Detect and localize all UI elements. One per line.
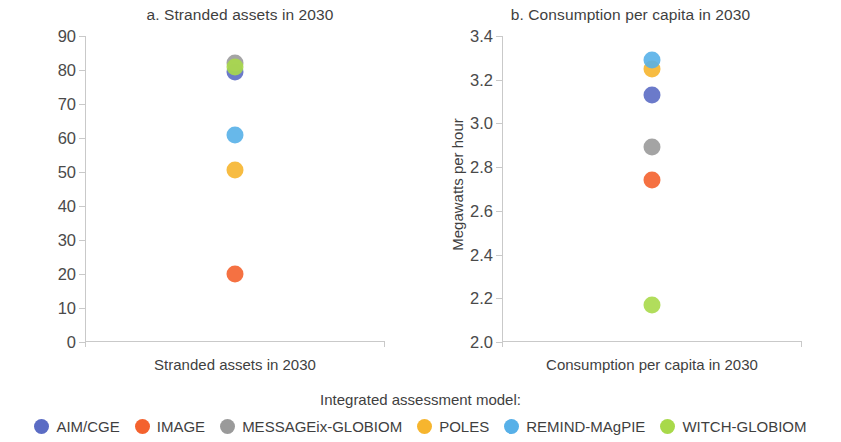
x-axis-line-a [85, 341, 385, 342]
y-tick-label-a-2: 20 [58, 265, 76, 284]
y-tick-a-2 [79, 274, 85, 275]
data-point [227, 162, 244, 179]
legend-item-remind-magpie[interactable]: REMIND-MAgPIE [504, 418, 645, 435]
y-axis-line-b [502, 36, 503, 342]
y-tick-label-b-7: 3.4 [470, 27, 493, 46]
legend-item-label: AIM/CGE [56, 418, 119, 435]
panel-b-title: b. Consumption per capita in 2030 [420, 6, 841, 24]
legend-item-label: POLES [439, 418, 489, 435]
x-axis-line-b [502, 341, 802, 342]
data-point [644, 296, 661, 313]
y-tick-a-4 [79, 206, 85, 207]
y-axis-title-b: Megawatts per hour [449, 75, 466, 295]
legend-item-poles[interactable]: POLES [417, 418, 489, 435]
y-tick-a-0 [79, 342, 85, 343]
legend-swatch-icon [417, 419, 432, 434]
y-tick-label-a-3: 30 [58, 231, 76, 250]
legend-swatch-icon [660, 419, 675, 434]
plot-area-a: 0102030405060708090 [85, 36, 385, 342]
legend-swatch-icon [135, 419, 150, 434]
data-point [644, 172, 661, 189]
y-tick-label-b-0: 2.0 [470, 333, 493, 352]
y-tick-label-a-6: 60 [58, 129, 76, 148]
y-tick-b-4 [496, 167, 502, 168]
plot-area-b: 2.02.22.42.62.83.03.23.4 Megawatts per h… [502, 36, 802, 342]
y-tick-label-a-5: 50 [58, 163, 76, 182]
y-tick-a-5 [79, 172, 85, 173]
y-tick-label-a-9: 90 [58, 27, 76, 46]
x-axis-label-b: Consumption per capita in 2030 [502, 356, 802, 373]
legend-swatch-icon [34, 419, 49, 434]
x-axis-end-tick-left-a [85, 342, 86, 347]
y-tick-b-6 [496, 80, 502, 81]
data-point [644, 52, 661, 69]
y-tick-label-b-3: 2.6 [470, 201, 493, 220]
y-tick-label-b-6: 3.2 [470, 70, 493, 89]
legend-item-label: REMIND-MAgPIE [526, 418, 645, 435]
y-tick-label-a-8: 80 [58, 61, 76, 80]
data-point [227, 58, 244, 75]
y-tick-a-1 [79, 308, 85, 309]
legend-item-witch-globiom[interactable]: WITCH-GLOBIOM [660, 418, 806, 435]
data-point [644, 87, 661, 104]
y-tick-label-b-1: 2.2 [470, 289, 493, 308]
y-tick-label-a-4: 40 [58, 197, 76, 216]
y-tick-label-a-1: 10 [58, 299, 76, 318]
y-tick-label-b-5: 3.0 [470, 114, 493, 133]
legend-item-aim-cge[interactable]: AIM/CGE [34, 418, 119, 435]
y-tick-label-a-0: 0 [67, 333, 76, 352]
y-axis-line-a [85, 36, 86, 342]
data-point [227, 266, 244, 283]
y-tick-label-a-7: 70 [58, 95, 76, 114]
y-tick-label-b-4: 2.8 [470, 158, 493, 177]
figure-container: a. Stranded assets in 2030 0102030405060… [0, 0, 841, 442]
y-tick-a-7 [79, 104, 85, 105]
y-tick-b-7 [496, 36, 502, 37]
legend-swatch-icon [220, 419, 235, 434]
panel-stranded-assets: a. Stranded assets in 2030 0102030405060… [0, 0, 420, 380]
y-tick-b-1 [496, 298, 502, 299]
y-tick-b-3 [496, 211, 502, 212]
legend-item-label: WITCH-GLOBIOM [682, 418, 806, 435]
x-axis-end-tick-right-b [801, 342, 802, 347]
y-tick-a-9 [79, 36, 85, 37]
legend-item-image[interactable]: IMAGE [135, 418, 205, 435]
panel-a-title: a. Stranded assets in 2030 [0, 6, 450, 24]
x-axis-end-tick-right-a [384, 342, 385, 347]
y-tick-a-8 [79, 70, 85, 71]
legend-item-label: IMAGE [157, 418, 205, 435]
y-tick-b-0 [496, 342, 502, 343]
legend-item-messageix-globiom[interactable]: MESSAGEix-GLOBIOM [220, 418, 402, 435]
y-tick-label-b-2: 2.4 [470, 245, 493, 264]
y-tick-a-6 [79, 138, 85, 139]
legend-title: Integrated assessment model: [0, 391, 841, 408]
y-tick-a-3 [79, 240, 85, 241]
legend-swatch-icon [504, 419, 519, 434]
legend: AIM/CGEIMAGEMESSAGEix-GLOBIOMPOLESREMIND… [0, 418, 841, 435]
legend-item-label: MESSAGEix-GLOBIOM [242, 418, 402, 435]
y-tick-b-5 [496, 123, 502, 124]
data-point [227, 127, 244, 144]
data-point [644, 139, 661, 156]
y-tick-b-2 [496, 255, 502, 256]
x-axis-end-tick-left-b [502, 342, 503, 347]
x-axis-label-a: Stranded assets in 2030 [85, 356, 385, 373]
